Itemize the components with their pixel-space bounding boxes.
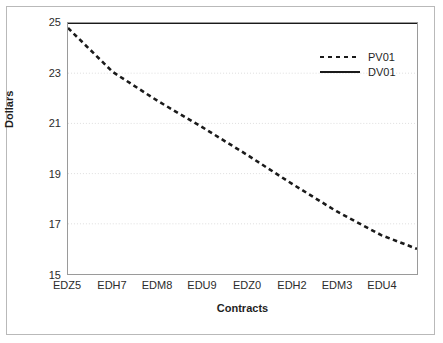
x-tick-label: EDH7 — [97, 280, 126, 291]
y-tick-label: 19 — [49, 168, 61, 179]
y-tick-label: 17 — [49, 219, 61, 230]
chart-legend: PV01DV01 — [318, 50, 414, 82]
y-tick-label: 21 — [49, 118, 61, 129]
y-axis-tick-labels: 151719212325 — [34, 22, 61, 275]
x-tick-label: EDU4 — [367, 280, 396, 291]
y-tick-label: 23 — [49, 67, 61, 78]
legend-item-dv01[interactable]: DV01 — [318, 65, 414, 79]
chart-figure: Dollars 151719212325 EDZ5EDH7EDM8EDU9EDZ… — [0, 0, 443, 343]
x-tick-label: EDM8 — [142, 280, 173, 291]
legend-label: DV01 — [368, 65, 396, 79]
x-tick-label: EDM3 — [322, 280, 353, 291]
x-axis-title: Contracts — [67, 303, 418, 314]
legend-item-pv01[interactable]: PV01 — [318, 50, 414, 64]
x-tick-label: EDH2 — [277, 280, 306, 291]
y-axis-title: Dollars — [4, 91, 15, 128]
legend-swatch-solid — [318, 65, 362, 79]
x-axis-tick-labels: EDZ5EDH7EDM8EDU9EDZ0EDH2EDM3EDU4 — [67, 280, 418, 296]
legend-swatch-dashed — [318, 50, 362, 64]
legend-label: PV01 — [368, 50, 395, 64]
x-tick-label: EDZ5 — [53, 280, 81, 291]
x-tick-label: EDU9 — [187, 280, 216, 291]
y-tick-label: 25 — [49, 17, 61, 28]
x-tick-label: EDZ0 — [233, 280, 261, 291]
